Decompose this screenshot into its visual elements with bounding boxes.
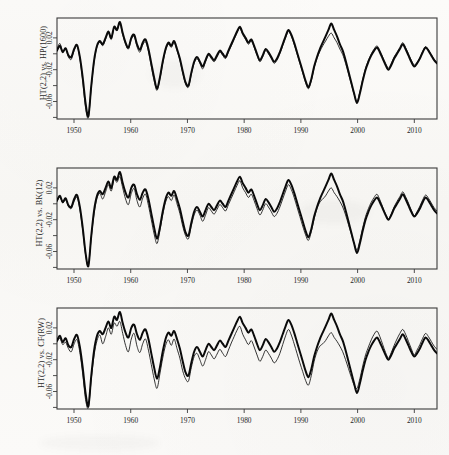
plot-frame: [57, 168, 437, 269]
series-line-cf-rw: [57, 321, 437, 408]
x-tick-label: 1990: [293, 276, 308, 285]
x-tick-label: 1970: [180, 126, 195, 135]
y-tick-label: 0.02: [45, 321, 54, 334]
y-tick-label: 0.02: [45, 181, 54, 194]
chart-panel-bk12: HT(2,2) vs. BK(12) 0.02-0.02-0.061950196…: [0, 154, 449, 299]
y-tick-label: -0.02: [45, 352, 54, 368]
x-tick-label: 1980: [237, 276, 252, 285]
x-tick-label: 2000: [350, 416, 365, 425]
series-group: [57, 172, 437, 266]
chart-svg-1: 0.02-0.02-0.0619501960197019801990200020…: [0, 154, 449, 299]
x-tick-label: 2010: [407, 416, 422, 425]
x-tick-label: 2000: [350, 126, 365, 135]
series-line-ht-2-2: [57, 22, 437, 116]
x-tick-label: 1950: [67, 276, 82, 285]
x-tick-label: 1970: [180, 416, 195, 425]
series-group: [57, 312, 437, 408]
chart-svg-0: 0.02-0.02-0.0619501960197019801990200020…: [0, 4, 449, 149]
x-tick-label: 1990: [293, 416, 308, 425]
x-tick-label: 1980: [237, 416, 252, 425]
series-group: [57, 22, 437, 118]
y-axis-label-wrap-1: HT(2,2) vs. BK(12): [0, 154, 22, 272]
chart-svg-2: 0.02-0.02-0.0619501960197019801990200020…: [0, 294, 449, 439]
y-tick-label: -0.06: [45, 384, 54, 400]
plot-frame: [57, 18, 437, 119]
x-tick-label: 1950: [67, 416, 82, 425]
y-axis-label-2: HT(2,2) vs. CF(RW): [37, 318, 46, 388]
x-tick-label: 1960: [123, 416, 138, 425]
x-tick-label: 2010: [407, 126, 422, 135]
y-axis-label-wrap-2: HT(2,2) vs. CF(RW): [0, 294, 22, 412]
y-axis-label-1: HT(2,2) vs. BK(12): [35, 180, 44, 247]
series-line-hp-1600: [57, 24, 437, 119]
x-tick-label: 1960: [123, 276, 138, 285]
y-tick-label: -0.02: [45, 212, 54, 228]
y-tick-label: -0.06: [45, 244, 54, 260]
x-tick-label: 1950: [67, 126, 82, 135]
series-line-ht-2-2: [57, 172, 437, 266]
x-tick-label: 2000: [350, 276, 365, 285]
y-axis-label-0: HT(2,2) vs. HP(1600): [39, 26, 48, 100]
x-tick-label: 1970: [180, 276, 195, 285]
y-axis-label-wrap-0: HT(2,2) vs. HP(1600): [0, 4, 22, 122]
chart-panel-cfrw: HT(2,2) vs. CF(RW) 0.02-0.02-0.061950196…: [0, 294, 449, 439]
x-tick-label: 1960: [123, 126, 138, 135]
chart-panel-hp1600: HT(2,2) vs. HP(1600) 0.02-0.02-0.0619501…: [0, 4, 449, 149]
x-tick-label: 2010: [407, 276, 422, 285]
x-tick-label: 1990: [293, 126, 308, 135]
x-tick-label: 1980: [237, 126, 252, 135]
series-line-ht-2-2: [57, 312, 437, 406]
